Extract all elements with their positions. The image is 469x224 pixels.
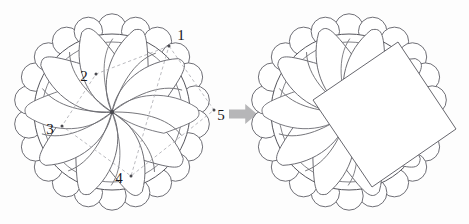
diagram-stage: 12345 — [0, 0, 469, 224]
point-marker-4 — [130, 175, 133, 178]
point-label-4: 4 — [115, 170, 123, 186]
point-label-1: 1 — [177, 27, 185, 43]
point-marker-5 — [213, 109, 216, 112]
point-marker-1 — [168, 45, 171, 48]
left-center-dot — [110, 110, 114, 114]
point-label-2: 2 — [80, 68, 88, 84]
point-label-5: 5 — [217, 107, 225, 123]
point-marker-3 — [61, 125, 64, 128]
point-marker-2 — [95, 73, 98, 76]
point-label-3: 3 — [46, 121, 54, 137]
figure-canvas: 12345 — [0, 0, 469, 224]
